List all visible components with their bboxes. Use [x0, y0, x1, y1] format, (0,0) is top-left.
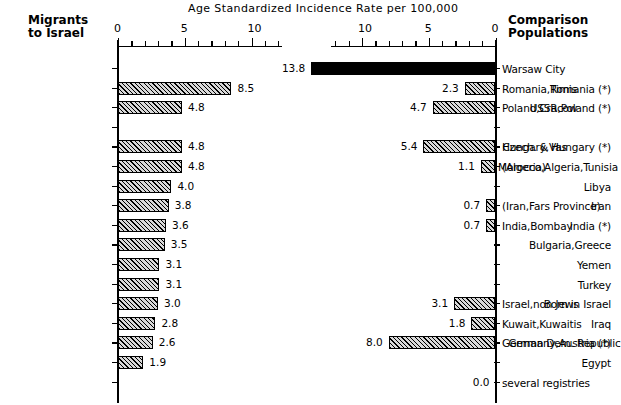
left-bar-value: 4.8	[188, 140, 205, 152]
left-category-label: Yemen	[498, 259, 611, 271]
right-category-label: (Iran,Fars Province)	[502, 200, 600, 212]
left-axis-tick	[265, 41, 266, 46]
left-category-label: Turkey	[498, 279, 611, 291]
chart-row: Yemen3.1	[0, 256, 611, 275]
left-bar	[118, 140, 182, 153]
chart-row	[0, 119, 611, 138]
left-axis-tick	[118, 38, 119, 46]
left-category-label: Egypt	[498, 357, 611, 369]
left-bar	[118, 336, 153, 349]
chart-row: Germany,Austria (*)2.6German Dem. Republ…	[0, 334, 611, 353]
right-bar	[465, 82, 496, 95]
right-category-label: Poland,Cracow	[502, 102, 577, 114]
left-axis-tick	[252, 38, 253, 46]
left-axis-tick	[198, 41, 199, 46]
right-axis-tick	[402, 41, 403, 46]
left-bar-value: 3.6	[172, 219, 189, 231]
left-bar	[118, 199, 169, 212]
left-bar	[118, 219, 166, 232]
left-axis-tick	[211, 41, 212, 46]
right-axis-tick	[496, 38, 497, 46]
left-axis-header-line2: to Israel	[28, 27, 88, 40]
right-bar-value: 8.0	[349, 336, 383, 348]
chart-row: USSR,Poland (*)4.8Poland,Cracow4.7	[0, 99, 611, 118]
right-axis-tick	[375, 41, 376, 46]
right-bar-value: 0.7	[446, 219, 480, 231]
right-category-label: India,Bombay	[502, 220, 572, 232]
chart-row: Born in Israel3.0Israel,non Jews3.1	[0, 295, 611, 314]
left-axis-tick	[225, 41, 226, 46]
left-axis-tick	[171, 41, 172, 46]
right-category-label: (Algeria)	[502, 161, 546, 173]
left-axis-tick-label: 0	[114, 22, 121, 35]
chart-row: India (*)3.6India,Bombay0.7	[0, 217, 611, 236]
right-category-label: Kuwait,Kuwaitis	[502, 318, 582, 330]
left-bar-value: 1.9	[149, 356, 166, 368]
left-axis-tick	[238, 41, 239, 46]
right-axis-tick	[349, 41, 350, 46]
left-bar-value: 3.1	[165, 278, 182, 290]
left-bar	[118, 82, 231, 95]
left-category-label: Libya	[498, 181, 611, 193]
left-bar	[118, 180, 171, 193]
right-axis-tick	[335, 41, 336, 46]
right-bar	[389, 336, 496, 349]
left-bar-value: 2.8	[161, 317, 178, 329]
left-bar	[118, 258, 159, 271]
left-bar	[118, 317, 155, 330]
right-axis-tick	[482, 41, 483, 46]
right-bar-value: 1.1	[441, 160, 475, 172]
right-axis-tick	[362, 38, 363, 46]
left-bar	[118, 160, 182, 173]
left-axis-tick-label: 5	[181, 22, 188, 35]
right-bar	[433, 101, 496, 114]
right-bar	[311, 62, 495, 75]
right-axis-header-line2: Populations	[508, 27, 588, 40]
left-bar-value: 4.8	[188, 101, 205, 113]
right-category-label: Romania,Timis	[502, 83, 577, 95]
chart-row: Morocco,Algeria,Tunisia4.8(Algeria)1.1	[0, 158, 611, 177]
chart-row: Egypt1.9	[0, 354, 611, 373]
right-category-label: Israel,non Jews	[502, 298, 578, 310]
right-axis-tick-label: 10	[358, 22, 372, 35]
right-axis-tick	[415, 41, 416, 46]
left-bar	[118, 101, 182, 114]
left-axis-tick	[145, 41, 146, 46]
right-axis-tick-label: 5	[425, 22, 432, 35]
chart-row: Romania (*)8.5Romania,Timis2.3	[0, 80, 611, 99]
chart-row: Iran3.8(Iran,Fars Province)0.7	[0, 197, 611, 216]
left-bar	[118, 356, 143, 369]
right-bar-value: 0.7	[446, 199, 480, 211]
left-axis-tick	[185, 38, 186, 46]
chart-row: Bulgaria,Greece3.5	[0, 236, 611, 255]
chart-row: Iraq2.8Kuwait,Kuwaitis1.8	[0, 315, 611, 334]
right-category-label: Warsaw City	[502, 63, 565, 75]
right-axis-tick	[389, 41, 390, 46]
right-bar	[481, 160, 496, 173]
chart-row: Libya4.0	[0, 178, 611, 197]
left-bar	[118, 278, 159, 291]
right-axis-tick	[442, 41, 443, 46]
chart-title: Age Standardized Incidence Rate per 100,…	[188, 2, 458, 15]
right-horizontal-axis	[331, 46, 496, 47]
left-bar-value: 8.5	[237, 82, 254, 94]
left-bar-value: 3.5	[171, 238, 188, 250]
left-bar-value: 3.1	[165, 258, 182, 270]
left-category-label: Bulgaria,Greece	[498, 239, 611, 251]
right-axis-tick	[429, 38, 430, 46]
chart-row: several registries0.0	[0, 374, 611, 393]
right-axis-tick	[469, 41, 470, 46]
left-bar-value: 2.6	[159, 336, 176, 348]
left-bar-value: 3.8	[175, 199, 192, 211]
left-bar-value: 3.0	[164, 297, 181, 309]
chart-row: Turkey3.1	[0, 276, 611, 295]
right-bar-value: 2.3	[425, 82, 459, 94]
left-axis-tick	[158, 41, 159, 46]
left-horizontal-axis	[117, 46, 282, 47]
left-axis-header: Migrants to Israel	[28, 14, 88, 40]
right-bar-value: 1.8	[431, 317, 465, 329]
left-bar-value: 4.0	[177, 180, 194, 192]
right-category-label: several registries	[502, 377, 590, 389]
right-category-label: German Dem. Republic	[502, 337, 621, 349]
left-bar	[118, 238, 165, 251]
